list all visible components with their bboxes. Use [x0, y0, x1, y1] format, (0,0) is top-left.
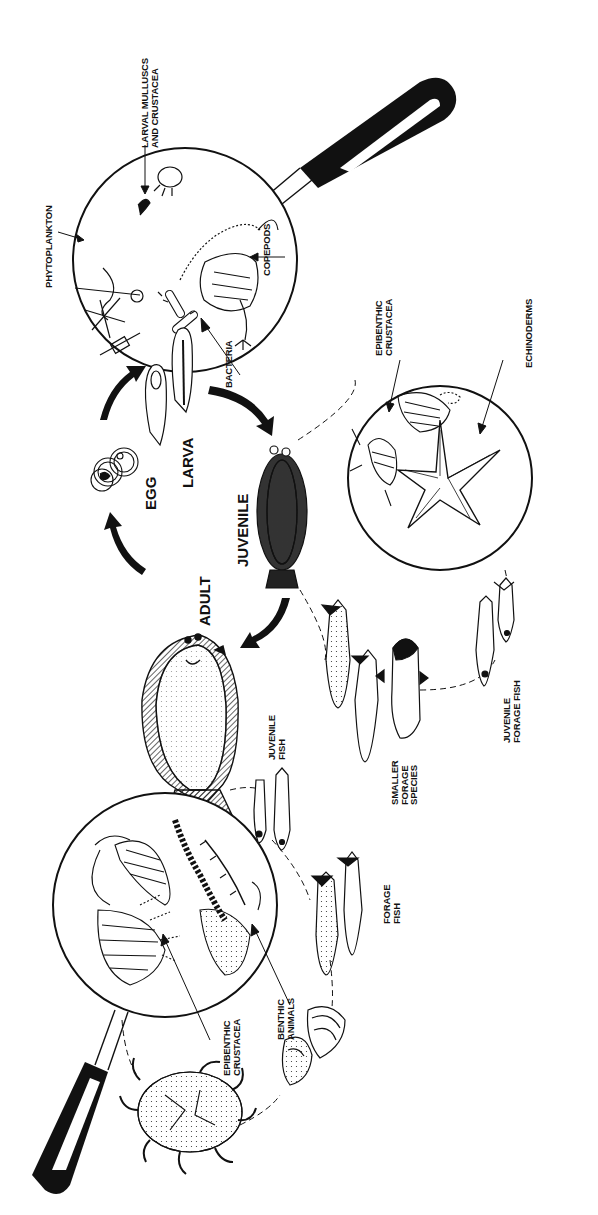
label-line: ANIMALS — [286, 998, 296, 1040]
label-adult: ADULT — [197, 576, 212, 626]
juvenile-flounder-icon — [257, 446, 307, 588]
label-echinoderms: ECHINODERMS — [524, 299, 534, 368]
larva-to-juvenile-arrow-icon — [208, 386, 274, 436]
label-juvenile-fish: JUVENILE FISH — [267, 715, 286, 760]
juvenile-diet-magnifier — [348, 360, 532, 570]
label-line: CRUSTACEA — [232, 1019, 242, 1076]
egg-icon — [91, 448, 138, 491]
label-phytoplankton: PHYTOPLANKTON — [44, 205, 54, 288]
flounder-life-cycle-diagram: LARVAL MULLUSCS AND CRUSTACEA PHYTOPLANK… — [0, 0, 598, 1215]
label-line: SPECIES — [409, 760, 419, 805]
label-benthic-animals: BENTHIC ANIMALS — [276, 998, 295, 1040]
diagram-artwork — [0, 0, 598, 1215]
label-larva: LARVA — [180, 438, 195, 488]
juvenile-to-adult-arrow-icon — [240, 598, 290, 648]
label-line: FISH — [277, 715, 287, 760]
label-epibenthic-crustacea-juvenile: EPIBENTHIC CRUSTACEA — [374, 299, 393, 356]
label-line: FORAGE FISH — [512, 680, 522, 743]
juvenile-fish-icon — [254, 768, 290, 850]
label-egg: EGG — [143, 477, 158, 510]
adult-to-egg-arrow-icon — [104, 512, 146, 575]
label-larval-molluscs-crustacea: LARVAL MULLUSCS AND CRUSTACEA — [140, 58, 159, 148]
label-juvenile: JUVENILE — [235, 494, 250, 567]
smaller-forage-species-icon — [322, 600, 428, 762]
larval-diet-magnifier — [58, 78, 456, 375]
forage-fish-icon — [312, 852, 362, 975]
label-juvenile-forage-fish: JUVENILE FORAGE FISH — [502, 680, 521, 743]
label-line: AND CRUSTACEA — [150, 58, 160, 148]
juvenile-forage-fish-icon — [476, 578, 514, 686]
label-smaller-forage-species: SMALLER FORAGE SPECIES — [390, 760, 419, 805]
label-line: FISH — [392, 885, 402, 924]
adult-flounder-icon — [142, 634, 238, 815]
egg-to-larva-arrow-icon — [100, 366, 146, 420]
label-epibenthic-crustacea-adult: EPIBENTHIC CRUSTACEA — [222, 1019, 241, 1076]
label-copepods: COPEPODS — [262, 224, 272, 276]
label-forage-fish: FORAGE FISH — [382, 885, 401, 924]
label-line: CRUSTACEA — [384, 299, 394, 356]
magnifier-handle-icon — [32, 1010, 128, 1194]
magnifier-handle-icon — [262, 78, 456, 212]
label-bacteria: BACTERIA — [224, 341, 234, 388]
